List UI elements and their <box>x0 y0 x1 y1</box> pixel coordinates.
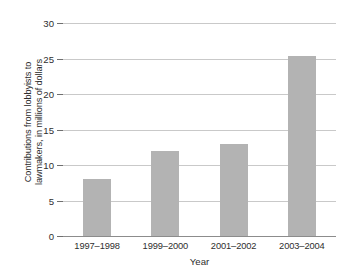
y-axis-tick-label: 5 <box>49 195 54 206</box>
bar <box>83 179 111 236</box>
y-axis-tick-label: 10 <box>43 160 54 171</box>
gridline <box>63 23 336 24</box>
x-axis-line <box>63 236 336 237</box>
y-axis-tick-label: 25 <box>43 53 54 64</box>
x-axis-tick-label: 1999–2000 <box>143 241 189 251</box>
y-axis-tick-mark <box>57 236 63 237</box>
x-axis-tick-label: 1997–1998 <box>74 241 120 251</box>
x-axis-tick-label: 2003–2004 <box>279 241 325 251</box>
plot-area: 0510152025301997–19981999–20002001–20022… <box>63 23 336 236</box>
y-axis-tick-label: 0 <box>49 231 54 242</box>
y-axis-tick-mark <box>57 23 63 24</box>
y-axis-tick-mark <box>57 94 63 95</box>
y-axis-tick-label: 15 <box>43 124 54 135</box>
y-axis-tick-label: 20 <box>43 89 54 100</box>
y-axis-title-line-1: Contributions from lobbyists to <box>23 62 34 182</box>
bar <box>288 56 316 236</box>
y-axis-tick-mark <box>57 59 63 60</box>
bar <box>151 151 179 236</box>
x-axis-title: Year <box>63 256 336 267</box>
x-axis-tick-label: 2001–2002 <box>211 241 257 251</box>
bar-chart-figure: Contributions from lobbyists to lawmaker… <box>0 0 347 277</box>
y-axis-tick-mark <box>57 201 63 202</box>
y-axis-tick-mark <box>57 130 63 131</box>
y-axis-tick-mark <box>57 165 63 166</box>
bar <box>220 144 248 236</box>
y-axis-tick-label: 30 <box>43 18 54 29</box>
y-axis-title: Contributions from lobbyists to lawmaker… <box>16 12 52 232</box>
